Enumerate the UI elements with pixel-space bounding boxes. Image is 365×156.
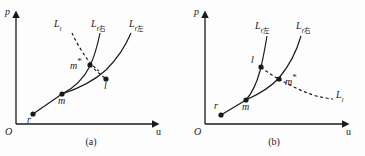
y-axis-label: p: [194, 6, 199, 17]
curve-label-L-r-left: Lr左: [129, 19, 144, 32]
panel-a: p O u Ll Lr右 Lr左 r m m* l (a): [0, 0, 182, 156]
curve-L-l-dashed: [261, 67, 279, 79]
curve-label-L-r-right: Lr右: [296, 21, 311, 34]
point-m-star: [87, 62, 92, 67]
point-label-l: l: [251, 55, 254, 65]
panel-a-caption: (a): [0, 136, 182, 147]
figure-root: p O u Ll Lr右 Lr左 r m m* l (a): [0, 0, 365, 156]
point-label-r: r: [214, 101, 218, 111]
point-r: [30, 111, 35, 116]
curve-L-r-right: [246, 36, 301, 100]
point-label-r: r: [27, 115, 31, 125]
panel-b-drawing: [183, 0, 365, 156]
point-label-m: m: [58, 96, 65, 106]
point-label-m-star: m*: [285, 74, 297, 87]
curve-label-L-l: Ll: [54, 19, 62, 32]
curve-label-L-r-right: Lr右: [91, 19, 106, 32]
point-m-star: [276, 76, 281, 81]
curve-label-L-l: Ll: [336, 90, 344, 103]
point-label-m-star: m*: [70, 58, 82, 71]
point-r: [218, 112, 223, 117]
curve-label-L-r-left: Lr左: [255, 21, 270, 34]
point-label-l: l: [104, 81, 107, 91]
y-axis-label: p: [5, 6, 10, 17]
point-l: [258, 64, 263, 69]
panel-b-caption: (b): [183, 136, 365, 147]
point-label-m: m: [242, 102, 249, 112]
panel-b: p O u Lr左 Lr右 Ll r m l m* (b): [183, 0, 365, 156]
